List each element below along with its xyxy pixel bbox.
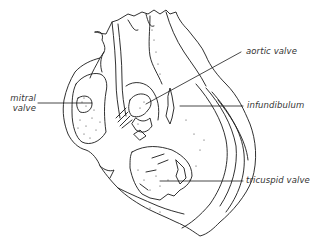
label-tricuspid-valve: tricuspid valve <box>246 175 310 185</box>
label-mitral-valve: mitral valve <box>2 93 36 113</box>
tricuspid-region <box>130 147 192 201</box>
vessel-right-wall-2 <box>166 12 206 86</box>
heart-illustration <box>0 0 314 241</box>
heart-diagram: aortic valve infundibulum mitral valve t… <box>0 0 314 241</box>
vessel-left-wall-2 <box>118 24 126 116</box>
vessel-left-wall <box>112 22 120 118</box>
rv-inner-wall-3 <box>212 92 244 212</box>
heart-outline <box>63 10 255 236</box>
mitral-leaflet <box>77 96 92 113</box>
tricuspid-marks <box>140 154 168 190</box>
label-mitral-line1: mitral <box>2 93 36 103</box>
aortic-valve-cusps <box>129 94 151 117</box>
chordae-lines <box>116 108 132 128</box>
label-infundibulum: infundibulum <box>247 100 304 110</box>
infundibulum-crest <box>166 88 174 124</box>
label-aortic-valve: aortic valve <box>246 46 297 56</box>
tricuspid-cusp <box>176 160 186 184</box>
label-mitral-line2: valve <box>2 103 36 113</box>
leader-aortic <box>146 52 241 104</box>
aortic-valve-lower <box>132 118 152 132</box>
